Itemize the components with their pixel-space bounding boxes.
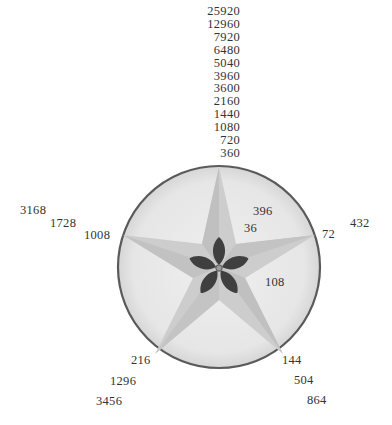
stack-number: 7920 bbox=[170, 31, 240, 44]
stack-number: 360 bbox=[170, 147, 240, 160]
label-1296: 1296 bbox=[110, 375, 136, 388]
label-432: 432 bbox=[350, 217, 370, 230]
label-864: 864 bbox=[307, 394, 327, 407]
stack-number: 25920 bbox=[170, 5, 240, 18]
label-144: 144 bbox=[282, 354, 302, 367]
label-216: 216 bbox=[131, 354, 151, 367]
label-1728: 1728 bbox=[50, 217, 76, 230]
label-504: 504 bbox=[294, 374, 314, 387]
label-396: 396 bbox=[253, 205, 273, 218]
stack-number: 6480 bbox=[170, 44, 240, 57]
label-3456: 3456 bbox=[96, 395, 122, 408]
stack-number: 5040 bbox=[170, 57, 240, 70]
label-1008: 1008 bbox=[84, 229, 110, 242]
label-3168: 3168 bbox=[20, 204, 46, 217]
stack-number: 12960 bbox=[170, 18, 240, 31]
diagram: 25920 12960 7920 6480 5040 3960 3600 216… bbox=[0, 0, 392, 425]
label-108: 108 bbox=[265, 276, 285, 289]
top-number-stack: 25920 12960 7920 6480 5040 3960 3600 216… bbox=[170, 5, 240, 160]
label-72: 72 bbox=[322, 228, 335, 241]
label-36: 36 bbox=[244, 222, 257, 235]
